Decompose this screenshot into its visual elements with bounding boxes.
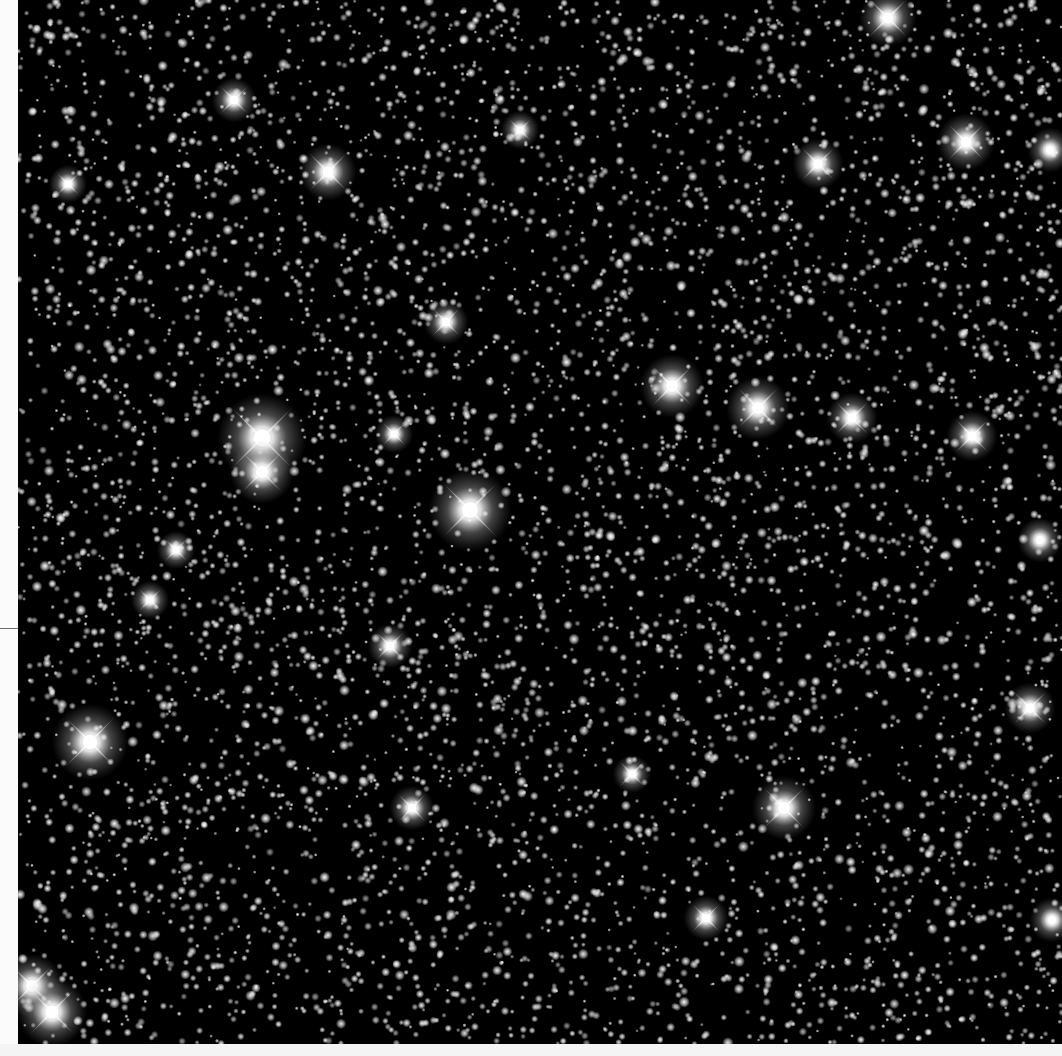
star-field-image <box>18 0 1062 1044</box>
margin-tick-line <box>0 628 18 629</box>
image-frame: Dense star field (globular/galactic fiel… <box>0 0 1062 1056</box>
bottom-margin <box>0 1044 1062 1056</box>
left-margin <box>0 0 18 1056</box>
star-field-canvas <box>18 0 1062 1044</box>
